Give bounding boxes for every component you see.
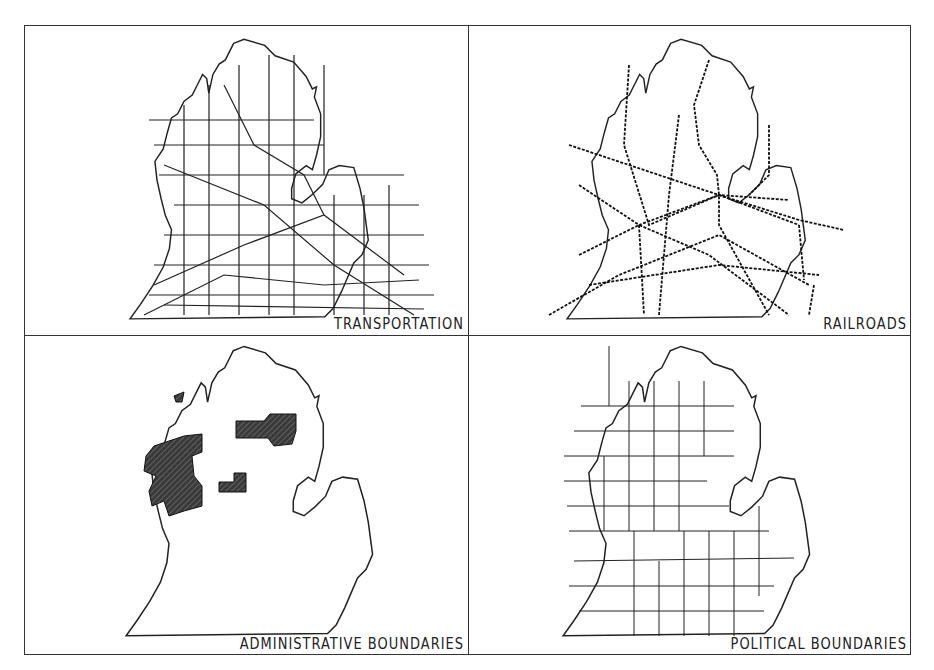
panel-political-boundaries: POLITICAL BOUNDARIES [469, 336, 911, 655]
panel-railroads: RAILROADS [469, 25, 911, 336]
transportation-map [24, 25, 469, 336]
road-network [144, 55, 434, 315]
panel-label: POLITICAL BOUNDARIES [731, 635, 907, 652]
panel-label: TRANSPORTATION [334, 315, 464, 332]
panel-administrative-boundaries: ADMINISTRATIVE BOUNDARIES [24, 336, 469, 655]
county-boundaries [564, 346, 794, 636]
panel-transportation: TRANSPORTATION [24, 25, 469, 336]
panel-label: ADMINISTRATIVE BOUNDARIES [240, 635, 464, 652]
administrative-map [24, 336, 469, 655]
railroad-network [549, 60, 844, 315]
political-map [469, 336, 911, 655]
railroads-map [469, 25, 911, 336]
administrative-areas [144, 392, 296, 516]
panel-label: RAILROADS [823, 315, 907, 332]
